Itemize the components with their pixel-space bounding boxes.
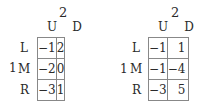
- cell-m-u: −2: [38, 59, 57, 80]
- payoff-table: −1 2 −2 0 −3 1: [37, 37, 65, 101]
- cell-l-u: −1: [38, 38, 57, 59]
- table-row: −3 1: [38, 80, 65, 101]
- cell-r-u: −3: [38, 80, 57, 101]
- row-label-r: R: [20, 83, 29, 97]
- table-row: −1 −4: [149, 59, 189, 80]
- cell-r-d: 1: [56, 80, 65, 101]
- payoff-table: −1 1 −1 −4 −3 5: [148, 37, 189, 101]
- row-label-l: L: [20, 41, 28, 55]
- row-label-r: R: [132, 83, 141, 97]
- cell-l-d: 2: [56, 38, 65, 59]
- cell-l-d: 1: [167, 38, 189, 59]
- column-label-u: U: [38, 20, 66, 34]
- cell-m-d: −4: [167, 59, 189, 80]
- table-row: −1 1: [149, 38, 189, 59]
- row-label-l: L: [132, 41, 140, 55]
- player-1-label: 1: [9, 61, 17, 75]
- table-row: −2 0: [38, 59, 65, 80]
- column-label-u: U: [149, 20, 177, 34]
- player-2-label: 2: [59, 5, 67, 20]
- cell-l-u: −1: [149, 38, 168, 59]
- table-row: −3 5: [149, 80, 189, 101]
- row-label-m: M: [18, 62, 30, 76]
- cell-r-u: −3: [149, 80, 168, 101]
- table-row: −1 2: [38, 38, 65, 59]
- column-label-d: D: [175, 20, 203, 34]
- row-label-m: M: [130, 62, 142, 76]
- player-2-label: 2: [171, 5, 179, 20]
- cell-m-u: −1: [149, 59, 168, 80]
- player-1-label: 1: [120, 62, 128, 76]
- column-label-d: D: [63, 20, 91, 34]
- cell-r-d: 5: [167, 80, 189, 101]
- cell-m-d: 0: [56, 59, 65, 80]
